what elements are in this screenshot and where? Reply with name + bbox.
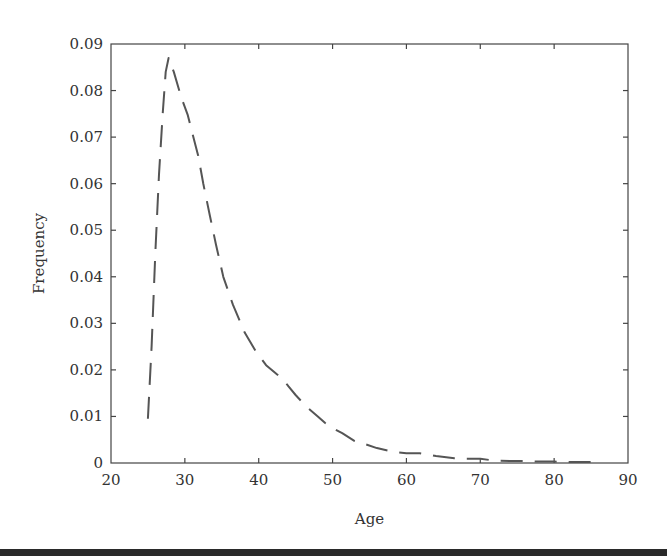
- y-tick-label: 0.06: [70, 175, 103, 193]
- y-tick-label: 0.03: [70, 314, 103, 332]
- x-tick-label: 40: [249, 471, 268, 489]
- y-axis-label: Frequency: [30, 212, 48, 294]
- y-tick-label: 0.01: [70, 407, 103, 425]
- frequency-series-line: [148, 58, 591, 462]
- y-tick-label: 0: [93, 454, 103, 472]
- x-tick-label: 50: [323, 471, 342, 489]
- x-axis-label: Age: [354, 510, 384, 528]
- x-tick-label: 60: [397, 471, 416, 489]
- y-tick-label: 0.07: [70, 128, 103, 146]
- y-tick-label: 0.05: [70, 221, 103, 239]
- x-tick-label: 80: [545, 471, 564, 489]
- x-tick-label: 70: [471, 471, 490, 489]
- plot-frame: [111, 44, 628, 463]
- y-tick-label: 0.09: [70, 35, 103, 53]
- y-tick-label: 0.08: [70, 82, 103, 100]
- x-tick-label: 90: [618, 471, 637, 489]
- line-chart: 203040506070809000.010.020.030.040.050.0…: [0, 0, 667, 559]
- x-tick-label: 20: [101, 471, 120, 489]
- y-tick-label: 0.02: [70, 361, 103, 379]
- page-divider-bar: [0, 549, 667, 556]
- x-tick-label: 30: [175, 471, 194, 489]
- axis-ticks: [111, 44, 628, 463]
- y-tick-label: 0.04: [70, 268, 103, 286]
